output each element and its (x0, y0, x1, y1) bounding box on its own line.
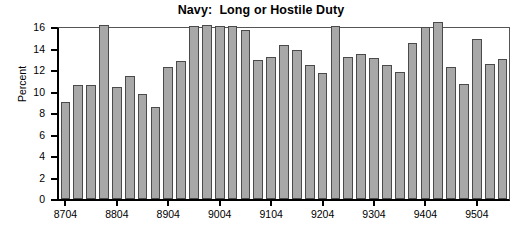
bar (266, 57, 276, 199)
x-tick-mark (270, 201, 272, 206)
y-tick-label: 16 (33, 21, 45, 34)
x-tick-label: 9004 (196, 208, 244, 220)
x-tick-label: 8904 (144, 208, 192, 220)
bar (382, 65, 392, 199)
chart-title: Navy: Long or Hostile Duty (0, 3, 522, 17)
bar (421, 27, 431, 199)
bar (485, 64, 495, 199)
x-tick-mark (424, 201, 426, 206)
bar (459, 84, 469, 199)
x-tick-label: 9504 (453, 208, 501, 220)
bar (408, 43, 418, 199)
x-tick-label: 9104 (247, 208, 295, 220)
bar (228, 26, 238, 199)
x-axis-ticks: 870488048904900491049204930494049504 (57, 201, 510, 237)
bar (138, 94, 148, 199)
bar (356, 54, 366, 199)
x-tick-mark (476, 201, 478, 206)
y-tick-label: 2 (39, 172, 45, 185)
x-tick-mark (373, 201, 375, 206)
bar (86, 85, 96, 199)
x-tick-mark (167, 201, 169, 206)
bar (318, 73, 328, 199)
y-axis-ticks: 0246810121416 (0, 27, 57, 201)
bar (446, 67, 456, 199)
x-tick-mark (64, 201, 66, 206)
bar (202, 25, 212, 199)
bar (433, 22, 443, 199)
bar (472, 39, 482, 199)
bar (343, 57, 353, 199)
bar (189, 26, 199, 199)
y-tick-label: 4 (39, 150, 45, 163)
bar (73, 85, 83, 199)
bar (369, 58, 379, 199)
y-tick-label: 10 (33, 86, 45, 99)
bar (61, 102, 71, 199)
bar (498, 59, 508, 199)
x-tick-mark (219, 201, 221, 206)
x-tick-label: 8704 (41, 208, 89, 220)
x-tick-label: 9304 (350, 208, 398, 220)
bar (241, 30, 251, 199)
bar (253, 60, 263, 199)
bar (99, 25, 109, 199)
bar (215, 26, 225, 199)
x-tick-label: 8804 (93, 208, 141, 220)
chart-figure: Navy: Long or Hostile Duty Percent 02468… (0, 0, 522, 239)
bar (305, 65, 315, 199)
x-tick-label: 9204 (299, 208, 347, 220)
y-tick-label: 12 (33, 64, 45, 77)
y-tick-label: 6 (39, 129, 45, 142)
bar-series (59, 27, 509, 199)
bar (395, 72, 405, 199)
bar (292, 50, 302, 199)
y-tick-label: 8 (39, 107, 45, 120)
bar (176, 61, 186, 199)
x-tick-label: 9404 (401, 208, 449, 220)
bar (279, 45, 289, 199)
y-tick-label: 0 (39, 193, 45, 206)
bar (331, 26, 341, 199)
x-tick-mark (322, 201, 324, 206)
bar (112, 87, 122, 199)
bar (125, 76, 135, 199)
bar (151, 107, 161, 199)
x-tick-mark (116, 201, 118, 206)
bar (163, 67, 173, 199)
y-tick-label: 14 (33, 43, 45, 56)
